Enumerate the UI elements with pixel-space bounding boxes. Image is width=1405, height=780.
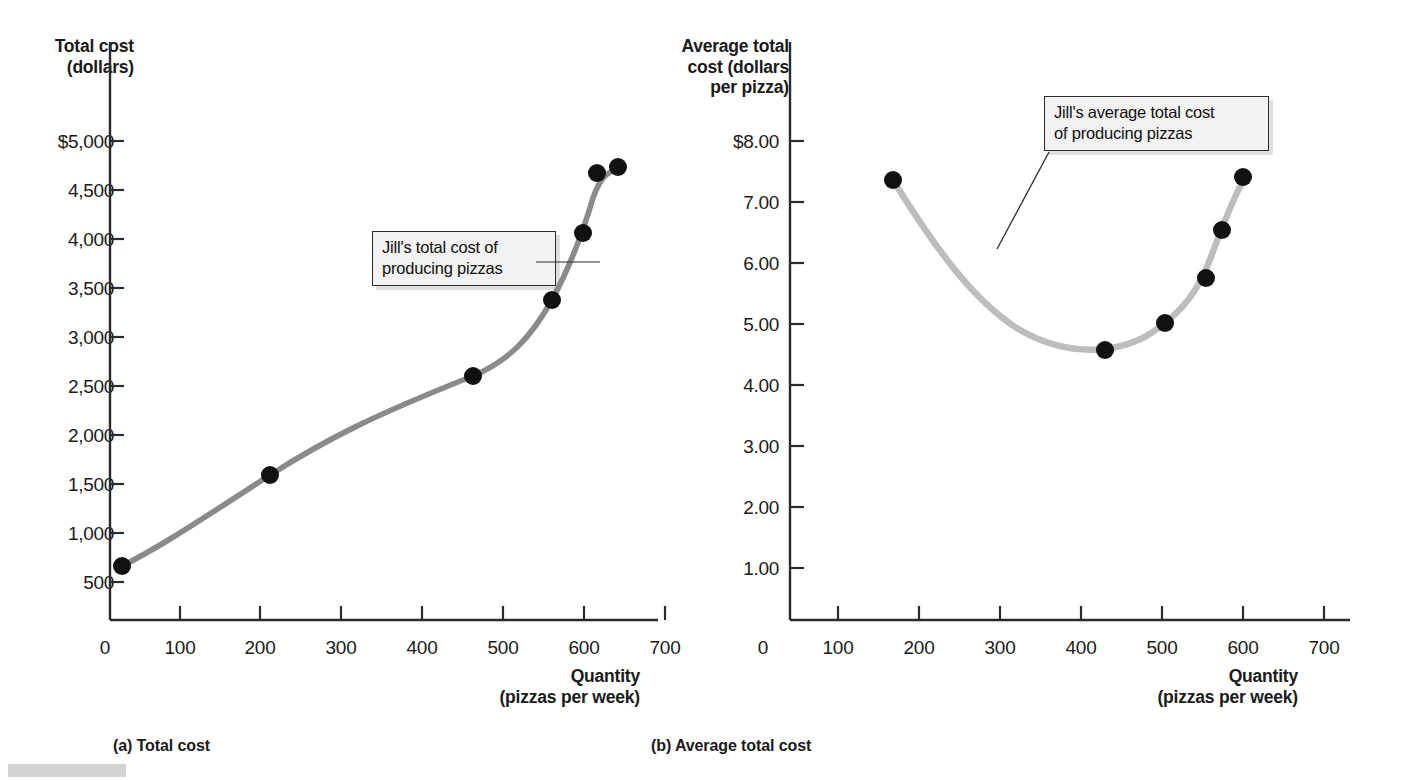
panel-a-markers bbox=[113, 158, 627, 575]
panel-b-point bbox=[1197, 269, 1215, 287]
panel-a-point bbox=[464, 367, 482, 385]
panel-a-x-axis-title: Quantity (pizzas per week) bbox=[390, 666, 640, 707]
panel-a-point bbox=[609, 158, 627, 176]
panel-a-x-ticks bbox=[180, 606, 665, 620]
panel-a-point bbox=[113, 557, 131, 575]
panel-b-caption: (b) Average total cost bbox=[651, 737, 811, 755]
panel-b-point bbox=[884, 171, 902, 189]
panel-a-plot bbox=[0, 0, 660, 660]
panel-b-x-ticks bbox=[838, 606, 1324, 620]
panel-b-point bbox=[1234, 168, 1252, 186]
panel-b-markers bbox=[884, 168, 1252, 359]
panel-a-point bbox=[261, 466, 279, 484]
panel-a-y-ticks bbox=[110, 141, 124, 582]
panel-total-cost: Total cost (dollars) $5,000 4,500 4,000 … bbox=[0, 0, 660, 780]
panel-b-y-ticks bbox=[790, 141, 804, 568]
panel-b-point bbox=[1096, 341, 1114, 359]
footer-marker-bar bbox=[8, 764, 126, 777]
panel-b-plot bbox=[645, 0, 1405, 660]
panel-a-caption: (a) Total cost bbox=[113, 737, 210, 755]
panel-a-point bbox=[588, 164, 606, 182]
panel-a-point bbox=[574, 224, 592, 242]
panel-a-curve bbox=[122, 168, 618, 566]
panel-average-total-cost: Average total cost (dollars per pizza) $… bbox=[645, 0, 1405, 780]
panel-b-point bbox=[1213, 221, 1231, 239]
panel-b-curve bbox=[893, 180, 1243, 350]
panel-b-point bbox=[1156, 314, 1174, 332]
panel-b-x-axis-title: Quantity (pizzas per week) bbox=[1048, 666, 1298, 707]
panel-a-point bbox=[543, 291, 561, 309]
panel-b-callout-leader bbox=[997, 152, 1049, 249]
